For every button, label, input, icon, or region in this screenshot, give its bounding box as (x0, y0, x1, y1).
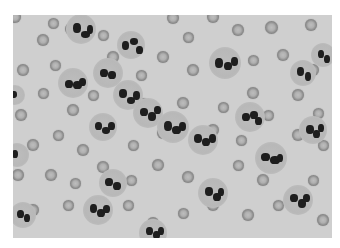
nucleus-lobe (209, 134, 216, 143)
neutrophil (58, 68, 88, 98)
neutrophil (83, 195, 113, 225)
red-blood-cell (167, 15, 179, 24)
nucleus-lobe (108, 71, 116, 79)
nucleus-lobe (215, 58, 223, 68)
nucleus-lobe (113, 182, 121, 190)
red-blood-cell (48, 18, 59, 29)
neutrophil (13, 202, 36, 228)
nucleus-lobe (108, 122, 115, 130)
neutrophil (139, 219, 167, 238)
red-blood-cell (17, 64, 29, 76)
nucleus-lobe (95, 122, 102, 130)
nucleus-lobe (158, 227, 164, 235)
neutrophil (255, 142, 287, 174)
neutrophil (311, 43, 332, 67)
red-blood-cell (248, 55, 259, 66)
neutrophil (209, 47, 241, 79)
red-blood-cell (207, 15, 219, 23)
red-blood-cell (37, 34, 49, 46)
red-blood-cell (178, 208, 189, 219)
nucleus-lobe (231, 57, 238, 66)
red-blood-cell (50, 60, 61, 71)
red-blood-cell (98, 30, 109, 41)
red-blood-cell (152, 159, 164, 171)
nucleus-lobe (87, 25, 93, 34)
nucleus-lobe (73, 23, 81, 33)
red-blood-cell (257, 174, 269, 186)
nucleus-lobe (154, 106, 161, 114)
neutrophil (99, 169, 127, 197)
nucleus-lobe (277, 154, 283, 162)
red-blood-cell (232, 24, 244, 36)
red-blood-cell (233, 160, 244, 171)
nucleus-lobe (318, 124, 324, 132)
red-blood-cell (88, 90, 99, 101)
red-blood-cell (183, 32, 194, 43)
red-blood-cell (126, 175, 137, 186)
red-blood-cell (157, 51, 169, 63)
nucleus-lobe (305, 72, 311, 81)
red-blood-cell (77, 144, 89, 156)
neutrophil (89, 113, 117, 141)
nucleus-lobe (13, 91, 17, 98)
nucleus-lobe (90, 204, 97, 213)
nucleus-lobe (324, 55, 330, 63)
neutrophil (188, 125, 218, 155)
nucleus-lobe (179, 122, 186, 131)
nucleus-lobe (133, 91, 140, 100)
neutrophil (93, 58, 123, 88)
red-blood-cell (305, 19, 317, 31)
red-blood-cell (15, 109, 27, 121)
neutrophil (157, 111, 189, 143)
nucleus-lobe (79, 78, 86, 86)
red-blood-cell (70, 178, 81, 189)
red-blood-cell (13, 169, 24, 181)
neutrophil (290, 60, 316, 86)
nucleus-lobe (261, 153, 270, 161)
red-blood-cell (13, 15, 21, 23)
nucleus-lobe (205, 187, 213, 196)
red-blood-cell (236, 135, 247, 146)
nucleus-lobe (17, 210, 24, 218)
red-blood-cell (45, 169, 57, 181)
nucleus-lobe (100, 69, 108, 77)
nucleus-lobe (136, 46, 143, 54)
red-blood-cell (247, 87, 259, 99)
nucleus-lobe (218, 188, 224, 196)
neutrophil (235, 102, 265, 132)
red-blood-cell (177, 97, 189, 109)
nucleus-lobe (303, 194, 310, 202)
red-blood-cell (273, 200, 284, 211)
red-blood-cell (292, 89, 304, 101)
nucleus-lobe (242, 113, 250, 121)
blood-smear-photo (13, 15, 332, 238)
nucleus-lobe (164, 121, 172, 131)
red-blood-cell (265, 21, 278, 34)
nucleus-lobe (119, 89, 127, 98)
red-blood-cell (218, 102, 229, 113)
neutrophil (13, 85, 25, 105)
red-blood-cell (317, 214, 329, 226)
red-blood-cell (187, 64, 199, 76)
red-blood-cell (242, 209, 254, 221)
nucleus-lobe (194, 134, 202, 143)
nucleus-lobe (290, 194, 298, 202)
red-blood-cell (27, 139, 39, 151)
red-blood-cell (53, 130, 64, 141)
red-blood-cell (136, 70, 147, 81)
red-blood-cell (128, 140, 139, 151)
neutrophil (198, 178, 228, 208)
nucleus-lobe (13, 150, 18, 158)
nucleus-lobe (24, 214, 30, 222)
nucleus-lobe (122, 41, 129, 50)
neutrophil (299, 116, 327, 144)
red-blood-cell (38, 88, 49, 99)
nucleus-lobe (130, 38, 138, 45)
neutrophil (117, 31, 145, 59)
red-blood-cell (308, 175, 319, 186)
nucleus-lobe (140, 108, 148, 116)
nucleus-lobe (105, 178, 113, 186)
red-blood-cell (277, 49, 289, 61)
nucleus-lobe (297, 67, 304, 76)
nucleus-lobe (146, 227, 153, 235)
